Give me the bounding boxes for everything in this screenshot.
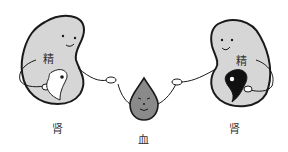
right-kidney <box>172 20 273 106</box>
illustration <box>0 0 288 152</box>
blood-drop <box>118 78 176 120</box>
left-kidney-label: 肾 <box>52 120 63 136</box>
right-kidney-label: 肾 <box>229 120 240 136</box>
right-essence-label: 精 <box>236 52 247 68</box>
blood-label: 血 <box>138 131 149 147</box>
left-essence-label: 精 <box>43 50 54 66</box>
left-kidney <box>20 16 116 104</box>
